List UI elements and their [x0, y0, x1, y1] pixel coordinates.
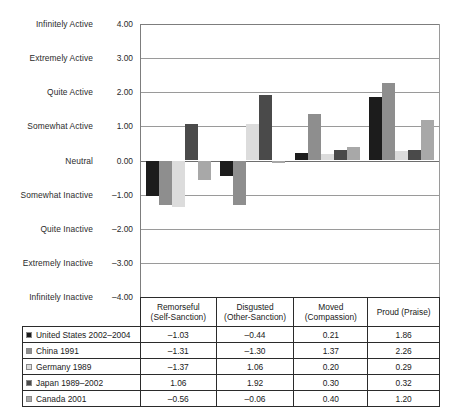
y-axis-tick: Quite Inactive–2.00: [0, 223, 140, 235]
y-axis-tick: Infinitely Active4.00: [0, 18, 140, 30]
bar-slot: [172, 24, 185, 297]
legend-swatch-icon: [26, 332, 32, 338]
table-cell-value: 0.40: [294, 391, 368, 407]
bar: [369, 97, 382, 160]
bar: [347, 147, 360, 161]
column-header-remorseful: Remorseful (Self-Sanction): [140, 298, 216, 327]
bar-group: [141, 24, 216, 297]
bar-slot: [408, 24, 421, 297]
column-header-disgusted: Disgusted (Other-Sanction): [216, 298, 294, 327]
table-cell-value: –0.06: [216, 391, 294, 407]
table-row: Canada 2001–0.56–0.060.401.20: [23, 391, 440, 407]
y-axis-tick: Neutral0.00: [0, 155, 140, 167]
bar: [395, 151, 408, 161]
table-cell-value: –1.37: [140, 359, 216, 375]
y-axis-tick-value: 4.00: [99, 19, 140, 29]
table-cell-value: 1.92: [216, 375, 294, 391]
data-table: Remorseful (Self-Sanction) Disgusted (Ot…: [22, 297, 440, 407]
y-axis-tick-verbal-label: Quite Active: [47, 87, 93, 97]
column-header-line1: Remorseful: [157, 302, 200, 312]
y-axis-tick-value: –1.00: [99, 190, 140, 200]
bar-slot: [259, 24, 272, 297]
bar-slot: [272, 24, 285, 297]
bar-slot: [347, 24, 360, 297]
y-axis: Infinitely Active4.00Extremely Active3.0…: [0, 0, 140, 310]
bar: [198, 161, 211, 180]
legend-entry: United States 2002–2004: [23, 327, 141, 343]
bar-group: [216, 24, 291, 297]
table-cell-value: 1.37: [294, 343, 368, 359]
y-axis-tick: Somewhat Inactive–1.00: [0, 189, 140, 201]
bar: [421, 120, 434, 161]
bar-slot: [146, 24, 159, 297]
bar: [334, 150, 347, 160]
y-axis-tick-verbal-label: Extremely Active: [30, 53, 94, 63]
column-header-line2: (Compassion): [294, 312, 367, 323]
table-cell-value: 1.06: [216, 359, 294, 375]
legend-entry-label: Japan 1989–2002: [36, 378, 103, 388]
table-body: United States 2002–2004–1.03–0.440.211.8…: [23, 327, 440, 407]
bar: [172, 161, 185, 208]
bar: [185, 124, 198, 160]
y-axis-tick-verbal-label: Somewhat Active: [27, 121, 93, 131]
table-row: Japan 1989–20021.061.920.300.32: [23, 375, 440, 391]
table-row: United States 2002–2004–1.03–0.440.211.8…: [23, 327, 440, 343]
legend-swatch-icon: [26, 380, 32, 386]
column-header-line1: Proud (Praise): [377, 307, 431, 317]
column-header-line1: Disgusted: [236, 302, 273, 312]
bar-slot: [185, 24, 198, 297]
y-axis-tick-verbal-label: Quite Inactive: [40, 224, 93, 234]
column-header-line1: Moved: [318, 302, 343, 312]
legend-entry-label: United States 2002–2004: [36, 330, 131, 340]
table-cell-value: –1.30: [216, 343, 294, 359]
chart-figure: Infinitely Active4.00Extremely Active3.0…: [0, 0, 458, 420]
bar: [220, 161, 233, 176]
bar: [308, 114, 321, 161]
legend-entry: China 1991: [23, 343, 141, 359]
table-cell-value: 0.29: [368, 359, 440, 375]
y-axis-tick: Quite Active2.00: [0, 86, 140, 98]
legend-entry: Germany 1989: [23, 359, 141, 375]
table-cell-value: 1.20: [368, 391, 440, 407]
y-axis-tick-value: 3.00: [99, 53, 140, 63]
bar: [259, 95, 272, 161]
bar-group-bars: [290, 24, 365, 297]
y-axis-tick: Extremely Inactive–3.00: [0, 257, 140, 269]
bar-slot: [220, 24, 233, 297]
bar: [382, 83, 395, 160]
legend-entry-label: China 1991: [36, 346, 79, 356]
bar: [146, 161, 159, 196]
table-header-row: Remorseful (Self-Sanction) Disgusted (Ot…: [23, 298, 440, 327]
table-cell-value: 0.20: [294, 359, 368, 375]
column-header-moved: Moved (Compassion): [294, 298, 368, 327]
y-axis-tick-verbal-label: Extremely Inactive: [23, 258, 93, 268]
y-axis-tick: Somewhat Active1.00: [0, 120, 140, 132]
bar: [246, 124, 259, 160]
y-axis-tick-value: 1.00: [99, 121, 140, 131]
bar: [233, 161, 246, 205]
bar: [321, 154, 334, 161]
table-cell-value: 0.30: [294, 375, 368, 391]
column-header-proud: Proud (Praise): [368, 298, 440, 327]
table-cell-value: 1.86: [368, 327, 440, 343]
y-axis-tick: Extremely Active3.00: [0, 52, 140, 64]
bar-slot: [295, 24, 308, 297]
table-cell-value: –1.03: [140, 327, 216, 343]
y-axis-tick-verbal-label: Infinitely Active: [36, 19, 93, 29]
bar-group-bars: [216, 24, 291, 297]
legend-swatch-icon: [26, 348, 32, 354]
table-cell-value: 2.26: [368, 343, 440, 359]
bar-slot: [382, 24, 395, 297]
y-axis-tick-verbal-label: Somewhat Inactive: [21, 190, 93, 200]
bar: [159, 161, 172, 206]
bar-slot: [233, 24, 246, 297]
table-cell-value: 1.06: [140, 375, 216, 391]
table-cell-value: –0.56: [140, 391, 216, 407]
legend-swatch-icon: [26, 364, 32, 370]
legend-swatch-icon: [26, 396, 32, 402]
bar-groups: [141, 24, 439, 297]
y-axis-tick-value: 0.00: [99, 156, 140, 166]
table-cell-value: 0.32: [368, 375, 440, 391]
y-axis-tick-value: 2.00: [99, 87, 140, 97]
bar-slot: [246, 24, 259, 297]
